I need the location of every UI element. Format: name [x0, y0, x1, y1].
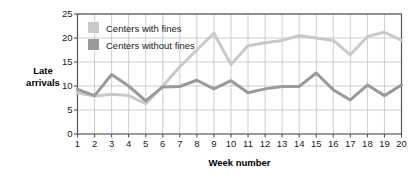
legend-label: Centers without fines — [106, 40, 195, 51]
y-tick-label: 15 — [62, 56, 73, 67]
x-tick-label: 7 — [177, 138, 182, 149]
x-tick-label: 15 — [311, 138, 322, 149]
y-axis-title-line1: Late — [33, 65, 53, 76]
x-tick-label: 13 — [277, 138, 288, 149]
y-axis-title-line2: arrivals — [26, 77, 60, 88]
chart-canvas: 0510152025123456789101112131415161718192… — [0, 0, 415, 192]
x-tick-label: 1 — [75, 138, 80, 149]
x-tick-label: 6 — [160, 138, 165, 149]
x-tick-label: 14 — [294, 138, 305, 149]
y-tick-label: 20 — [62, 32, 73, 43]
legend-swatch — [88, 22, 99, 33]
x-tick-label: 10 — [226, 138, 237, 149]
x-tick-label: 5 — [143, 138, 148, 149]
x-tick-label: 16 — [328, 138, 339, 149]
x-tick-label: 20 — [396, 138, 407, 149]
y-tick-label: 0 — [67, 128, 72, 139]
line-chart: 0510152025123456789101112131415161718192… — [0, 0, 415, 192]
x-tick-label: 9 — [211, 138, 216, 149]
x-tick-label: 8 — [194, 138, 199, 149]
x-tick-label: 17 — [345, 138, 356, 149]
x-tick-label: 19 — [379, 138, 390, 149]
y-tick-label: 5 — [67, 104, 72, 115]
x-tick-label: 3 — [109, 138, 114, 149]
x-axis-title: Week number — [208, 157, 270, 168]
x-tick-label: 12 — [260, 138, 271, 149]
y-tick-label: 10 — [62, 80, 73, 91]
x-tick-label: 18 — [362, 138, 373, 149]
legend-label: Centers with fines — [106, 23, 182, 34]
x-tick-label: 2 — [92, 138, 97, 149]
x-tick-label: 11 — [243, 138, 253, 149]
y-tick-label: 25 — [62, 8, 73, 19]
legend-swatch — [88, 39, 99, 50]
x-tick-label: 4 — [126, 138, 131, 149]
